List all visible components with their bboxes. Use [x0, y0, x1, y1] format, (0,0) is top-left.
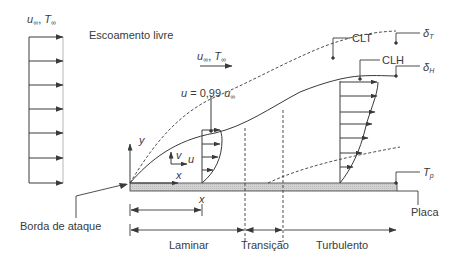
- placa-label: Placa: [411, 207, 439, 218]
- v-component-label: v: [176, 150, 182, 161]
- laminar-velocity-profile: [202, 96, 222, 183]
- y-axis-label: y: [139, 135, 145, 146]
- leading-edge-arrowhead: [119, 183, 128, 189]
- dim-x-label: x: [199, 194, 205, 205]
- turbulent-sublayer-curve: [268, 147, 400, 183]
- region-transition-label: Transição: [241, 240, 289, 251]
- clt-label: CLT: [352, 33, 372, 44]
- region-laminar-label: Laminar: [169, 240, 209, 251]
- tp-label: Tp: [423, 167, 434, 179]
- x-axis-label: x: [176, 170, 182, 181]
- plate: [130, 183, 397, 191]
- free-stream-label-top: u∞, T∞: [27, 14, 56, 26]
- region-turbulent-label: Turbulento: [316, 240, 368, 251]
- free-stream-label-middle: u∞, T∞: [197, 51, 226, 63]
- delta-t-label: δT: [423, 28, 433, 40]
- free-stream-profile: [29, 37, 63, 183]
- u-component-label: u: [188, 154, 194, 165]
- escoamento-livre-label: Escoamento livre: [89, 30, 173, 41]
- thermal-boundary-layer-curve: [130, 31, 396, 183]
- clh-label: CLH: [382, 55, 404, 66]
- u-099-label: u = 0,99 u∞: [181, 88, 235, 100]
- delta-h-label: δH: [423, 62, 434, 74]
- turbulent-velocity-profile: [340, 81, 378, 183]
- borda-de-ataque-label: Borda de ataque: [20, 221, 101, 232]
